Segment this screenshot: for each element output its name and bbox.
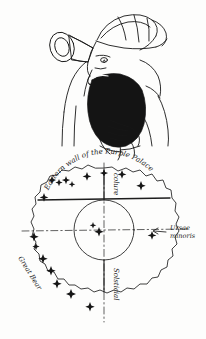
vertical-upper-label: colure <box>112 173 120 195</box>
right-star-label-line1: Ursae <box>170 224 190 232</box>
ursae-minoris-arrow <box>154 231 166 232</box>
star-group-inner <box>90 222 104 236</box>
manuscript-page: Eastern wall of the Purple Palace colure… <box>0 0 206 339</box>
purple-palace-star-diagram: Eastern wall of the Purple Palace colure… <box>0 0 206 339</box>
astronomical-diagram: Eastern wall of the Purple Palace colure… <box>0 0 206 339</box>
vertical-lower-label: Solsticial <box>112 268 120 300</box>
right-star-label-line2: minoris <box>170 232 196 240</box>
star-group-great-bear <box>38 254 94 311</box>
horizontal-dash-dot-axis <box>22 229 188 231</box>
